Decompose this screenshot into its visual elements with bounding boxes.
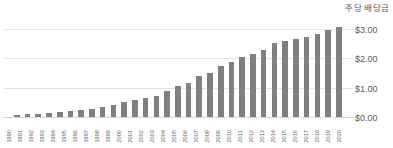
bar	[272, 43, 278, 118]
bar	[164, 91, 170, 118]
y-axis-tick-label: $0.00	[355, 113, 378, 123]
y-axis-tick-label: $1.00	[355, 84, 378, 94]
y-axis-tick-label: $2.00	[355, 54, 378, 64]
bar	[250, 54, 256, 118]
plot-area	[3, 29, 353, 118]
bar	[315, 34, 321, 118]
bar	[304, 37, 310, 118]
bar	[293, 39, 299, 118]
bar	[132, 100, 138, 118]
bar	[261, 50, 267, 118]
bar	[186, 83, 192, 118]
bar	[218, 66, 224, 118]
bar	[143, 98, 149, 118]
dividend-per-share-bar-chart: 주당 배당금 $0.00$1.00$2.00$3.00 199019911992…	[0, 0, 393, 148]
bar	[325, 30, 331, 118]
bar	[196, 76, 202, 118]
y-axis-tick-labels: $0.00$1.00$2.00$3.00	[355, 29, 393, 118]
x-axis-tick-labels: 1990199119921993199419951996199719981999…	[3, 119, 353, 148]
y-axis-tick-label: $3.00	[355, 25, 378, 35]
bar	[282, 41, 288, 118]
chart-title: 주당 배당금	[345, 3, 389, 14]
bars-container	[3, 21, 353, 118]
x-axis-baseline	[3, 117, 353, 118]
x-axis-tick-label: 2020	[336, 132, 358, 143]
bar	[229, 62, 235, 118]
bar	[336, 27, 342, 118]
bar	[121, 102, 127, 118]
bar	[175, 86, 181, 118]
bar	[239, 57, 245, 118]
bar	[207, 73, 213, 118]
bar	[154, 96, 160, 118]
